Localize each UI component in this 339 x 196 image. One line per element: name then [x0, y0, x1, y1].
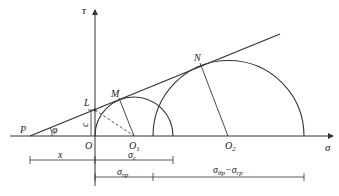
- cohesion-c-label: c: [79, 122, 90, 127]
- tau-axis-label: τ: [82, 4, 87, 16]
- point-p-label: P: [19, 124, 26, 135]
- center-o2-label: O2: [225, 140, 236, 153]
- dim-sigma-diff-label: σθp−σrp: [213, 164, 243, 177]
- origin-o-label: O: [85, 140, 92, 151]
- radius-o1-m: [119, 98, 134, 136]
- point-l-marker: [94, 109, 97, 112]
- mohr-circle-2: [153, 61, 304, 137]
- dim-x-label: x: [57, 149, 63, 160]
- angle-phi-label: φ: [52, 124, 58, 135]
- point-n-label: N: [193, 52, 202, 63]
- sigma-axis-label: σ: [325, 141, 331, 153]
- dimension-row-1: [30, 156, 173, 164]
- point-m-label: M: [110, 88, 120, 99]
- mohr-circle-diagram: τ σ P φ L M N c O O1 O2 x σc σrp σθp−σrp: [0, 0, 339, 196]
- dashed-line-l-o1: [95, 110, 134, 136]
- strength-envelope-line: [30, 34, 280, 136]
- point-l-label: L: [83, 97, 90, 108]
- radius-o2-n: [200, 63, 228, 136]
- mohr-circle-1: [95, 97, 173, 136]
